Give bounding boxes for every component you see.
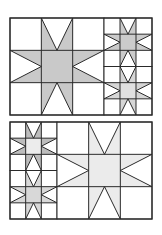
large-star-block [57, 122, 152, 219]
star-center [41, 50, 72, 82]
small-star-block-lower [104, 67, 152, 116]
star-center [120, 34, 136, 50]
top-panel [10, 18, 152, 115]
star-center [26, 187, 42, 203]
quilt-diagram: Sawtooth star quilt block layouts [0, 0, 162, 235]
large-star-block [10, 18, 104, 115]
star-center [120, 83, 136, 99]
quilt-panels [10, 18, 152, 219]
bottom-panel [10, 122, 152, 219]
star-center [89, 154, 121, 186]
star-center [26, 138, 42, 154]
small-star-block-lower [10, 171, 57, 220]
small-star-block-upper [104, 18, 152, 67]
small-star-block-upper [10, 122, 57, 171]
